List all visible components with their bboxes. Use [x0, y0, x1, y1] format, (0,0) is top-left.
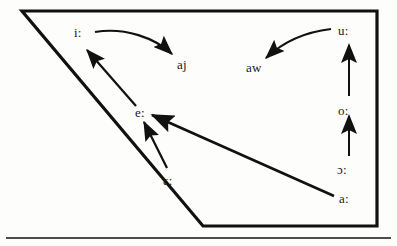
vowel-label-i: i:	[74, 26, 82, 39]
vowel-label-aj: aj	[177, 58, 187, 71]
vowel-label-aw: aw	[246, 61, 262, 74]
arrow-i-to-aj	[95, 31, 172, 54]
vowel-shift-figure: i: aj aw u: e: o: ɛ: ɔ: a:	[0, 0, 397, 246]
vowel-quadrilateral	[22, 11, 377, 226]
vowel-label-u: u:	[338, 24, 349, 37]
vowel-label-a: a:	[339, 192, 349, 205]
vowel-label-o: o:	[338, 104, 349, 117]
arrow-u-to-aw	[266, 29, 331, 58]
vowel-label-epsilon: ɛ:	[163, 174, 172, 187]
vowel-label-open-o: ɔ:	[337, 163, 347, 176]
vowel-label-e: e:	[135, 106, 145, 119]
arrow-a-to-e	[152, 115, 334, 196]
